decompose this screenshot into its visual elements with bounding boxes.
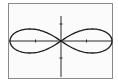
- axes: [9, 16, 112, 77]
- lemniscate-plot: [0, 0, 118, 84]
